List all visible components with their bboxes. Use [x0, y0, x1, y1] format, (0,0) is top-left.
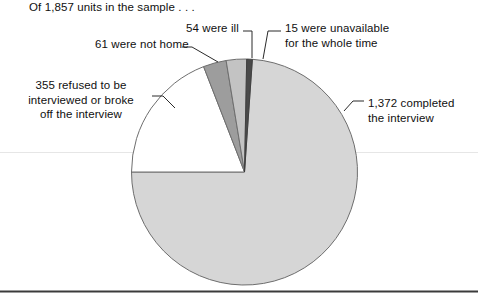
callout-label-refused: 355 refused to be interviewed or broke o…: [15, 78, 147, 122]
callout-text-completed-line2: the interview: [368, 111, 455, 126]
callout-label-ill: 54 were ill: [186, 21, 239, 36]
leader-line-unavailable: [263, 31, 281, 59]
callout-label-not-home: 61 were not home: [95, 37, 189, 52]
leader-line-completed: [344, 101, 364, 111]
callout-text-not-home: 61 were not home: [95, 38, 189, 50]
callout-text-refused-line3: off the interview: [15, 107, 147, 122]
callout-label-completed: 1,372 completed the interview: [368, 96, 455, 125]
pie-chart-graphic: [0, 0, 478, 303]
callout-label-unavailable: 15 were unavailable for the whole time: [285, 21, 389, 50]
callout-text-refused-line1: 355 refused to be: [15, 78, 147, 93]
pie-chart-figure: Of 1,857 units in the sample . . . 61 we…: [0, 0, 478, 303]
callout-text-unavailable-line1: 15 were unavailable: [285, 21, 389, 36]
callout-text-ill: 54 were ill: [186, 22, 239, 34]
callout-text-unavailable-line2: for the whole time: [285, 36, 389, 51]
callout-text-completed-line1: 1,372 completed: [368, 96, 455, 111]
callout-text-refused-line2: interviewed or broke: [15, 93, 147, 108]
leader-line-ill: [243, 31, 252, 58]
